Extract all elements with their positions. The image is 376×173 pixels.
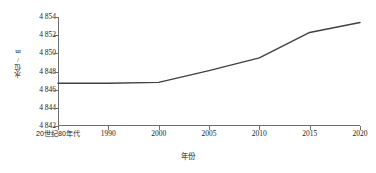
- x-axis-tick-labels: 20世纪80年代199020002005201020152020: [0, 129, 376, 143]
- x-tick-label: 2020: [353, 129, 368, 139]
- series-water-level: [58, 17, 360, 126]
- y-axis-tick-labels: 4 8544 8524 8504 8484 8464 8444 842: [22, 0, 56, 173]
- plot-area: [58, 17, 360, 126]
- x-axis-title: 年份: [0, 150, 376, 161]
- x-tick-label: 2015: [302, 129, 317, 139]
- x-tick-label: 1990: [101, 129, 116, 139]
- x-tick-label: 2000: [151, 129, 166, 139]
- line-chart: 水位/m 4 8544 8524 8504 8484 8464 8444 842…: [0, 0, 376, 173]
- x-tick-label: 2010: [252, 129, 267, 139]
- x-tick-label: 2005: [202, 129, 217, 139]
- x-tick-label: 20世纪80年代: [36, 129, 80, 139]
